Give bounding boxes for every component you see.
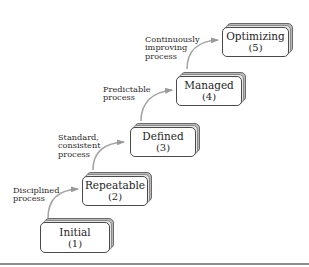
level-number: (4) xyxy=(202,91,216,102)
box-face: Managed (4) xyxy=(176,76,242,106)
box-face: Repeatable (2) xyxy=(82,176,148,206)
level-name: Defined xyxy=(142,131,183,142)
transition-label-disciplined: Disciplined process xyxy=(13,186,59,203)
level-name: Managed xyxy=(184,80,234,91)
label-line: process xyxy=(58,150,101,158)
level-box-repeatable: Repeatable (2) xyxy=(82,176,148,206)
level-name: Initial xyxy=(59,227,90,238)
box-face: Initial (1) xyxy=(40,222,110,253)
box-face: Optimizing (5) xyxy=(222,27,289,57)
level-number: (3) xyxy=(156,142,170,153)
level-box-initial: Initial (1) xyxy=(40,222,110,253)
label-line: process xyxy=(145,52,200,60)
label-line: process xyxy=(103,93,151,101)
transition-label-standard: Standard, consistent process xyxy=(58,133,101,158)
level-name: Optimizing xyxy=(226,31,285,42)
level-number: (2) xyxy=(108,191,122,202)
level-box-managed: Managed (4) xyxy=(176,76,242,106)
transition-label-continuously: Continuously improving process xyxy=(145,35,200,60)
level-name: Repeatable xyxy=(85,180,145,191)
level-box-optimizing: Optimizing (5) xyxy=(222,27,289,57)
label-line: process xyxy=(13,194,59,202)
level-number: (5) xyxy=(248,42,262,53)
transition-label-predictable: Predictable process xyxy=(103,85,151,102)
bottom-divider xyxy=(0,263,309,265)
maturity-diagram: Disciplined process Standard, consistent… xyxy=(0,0,309,267)
box-face: Defined (3) xyxy=(130,127,196,157)
level-box-defined: Defined (3) xyxy=(130,127,196,157)
level-number: (1) xyxy=(68,238,82,249)
